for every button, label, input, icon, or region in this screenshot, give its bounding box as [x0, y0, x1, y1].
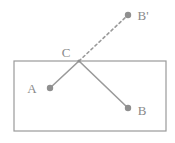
point-c-label: C	[62, 45, 71, 60]
segment-c-to-b-prime-dashed	[79, 15, 128, 61]
point-b-prime-label: B'	[137, 8, 148, 23]
point-b-marker	[125, 105, 131, 111]
segment-c-to-a	[50, 61, 79, 88]
segment-c-to-b	[79, 61, 128, 108]
point-c-marker	[77, 59, 80, 62]
point-a-marker	[47, 85, 53, 91]
point-b-label: B	[138, 103, 147, 118]
point-a-label: A	[27, 81, 37, 96]
reflection-diagram: A B C B'	[0, 0, 175, 143]
point-b-prime-marker	[125, 12, 131, 18]
diagram-canvas: A B C B'	[0, 0, 175, 143]
